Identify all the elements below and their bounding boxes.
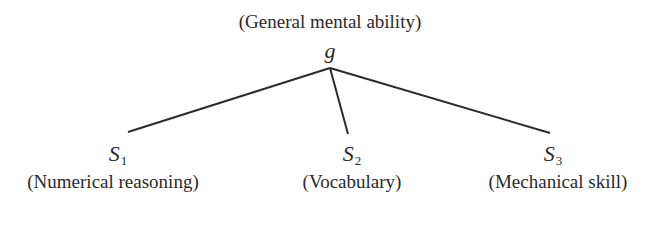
node-s2-subscript: 2: [355, 153, 362, 168]
node-s3-symbol: S: [544, 141, 555, 166]
node-s3-subscript: 3: [556, 153, 563, 168]
node-s1: S1: [109, 143, 128, 167]
node-s2: S2: [343, 143, 362, 167]
node-s3-caption: (Mechanical skill): [489, 172, 628, 191]
connector-g-s1: [128, 68, 330, 132]
node-s2-caption: (Vocabulary): [303, 172, 402, 191]
connector-g-s2: [330, 68, 348, 134]
node-s2-symbol: S: [343, 141, 354, 166]
connector-g-s3: [330, 68, 550, 133]
node-s1-caption: (Numerical reasoning): [27, 172, 198, 191]
node-s3: S3: [544, 143, 563, 167]
node-s1-subscript: 1: [121, 153, 128, 168]
node-s1-symbol: S: [109, 141, 120, 166]
